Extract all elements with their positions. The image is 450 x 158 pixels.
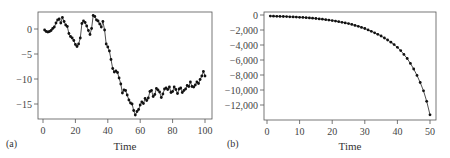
data-point	[119, 83, 122, 86]
data-point	[292, 16, 295, 19]
y-tick-label: −6,000	[230, 55, 258, 66]
chart-b-x-axis-title: Time	[339, 140, 362, 152]
data-point	[81, 22, 84, 25]
data-point	[318, 18, 321, 21]
data-point	[134, 114, 137, 117]
data-point	[132, 109, 135, 112]
data-point	[124, 89, 127, 92]
data-point	[184, 88, 187, 91]
data-point	[176, 92, 179, 95]
data-point	[105, 43, 108, 46]
data-point	[269, 15, 272, 18]
data-point	[275, 15, 278, 18]
data-point	[279, 15, 282, 18]
data-point	[199, 78, 202, 81]
data-point	[116, 71, 119, 74]
data-point	[150, 89, 153, 92]
data-point	[162, 93, 165, 96]
data-point	[173, 86, 176, 89]
data-point	[393, 43, 396, 46]
chart-a-x-axis-title: Time	[114, 140, 137, 152]
data-point	[202, 70, 205, 73]
y-tick-label: −2,000	[230, 25, 258, 36]
data-point	[354, 24, 357, 27]
data-point	[396, 46, 399, 49]
chart-b-series-line	[270, 16, 430, 115]
data-point	[403, 53, 406, 56]
data-point	[357, 25, 360, 28]
chart-a-plot-area	[38, 12, 212, 119]
chart-b-panel-label: (b)	[227, 138, 239, 150]
chart-a-series-line	[45, 16, 205, 116]
data-point	[71, 37, 74, 40]
data-point	[127, 99, 130, 102]
data-point	[102, 20, 105, 23]
y-tick-label: −10	[16, 74, 32, 85]
x-tick-label: 30	[360, 126, 370, 137]
data-point	[79, 37, 82, 40]
data-point	[179, 87, 182, 90]
data-point	[272, 15, 275, 18]
data-point	[77, 43, 80, 46]
x-tick-label: 60	[135, 125, 145, 136]
data-point	[409, 62, 412, 65]
data-point	[98, 23, 101, 26]
data-point	[282, 15, 285, 18]
data-point	[118, 77, 121, 80]
data-point	[93, 15, 96, 18]
x-tick-label: 0	[41, 125, 46, 136]
data-point	[197, 82, 200, 85]
data-point	[174, 88, 177, 91]
data-point	[321, 18, 324, 21]
data-point	[55, 22, 58, 25]
data-point	[347, 22, 350, 25]
data-point	[187, 85, 190, 88]
data-point	[85, 25, 88, 28]
y-tick-label: −10,000	[225, 85, 258, 96]
data-point	[108, 50, 111, 53]
data-point	[72, 39, 75, 42]
data-point	[68, 32, 71, 35]
data-point	[89, 33, 92, 36]
data-point	[66, 25, 69, 28]
x-tick-label: 20	[70, 125, 80, 136]
y-tick-label: −8,000	[230, 70, 258, 81]
data-point	[288, 15, 291, 18]
data-point	[139, 104, 142, 107]
x-tick-label: 10	[295, 126, 305, 137]
x-tick-label: 20	[327, 126, 337, 137]
data-point	[376, 33, 379, 36]
chart-b-x-axis: 01020304050	[265, 120, 436, 137]
data-point	[189, 81, 192, 84]
y-tick-label: −4,000	[230, 40, 258, 51]
data-point	[350, 23, 353, 26]
data-point	[334, 20, 337, 23]
data-point	[425, 100, 428, 103]
x-tick-label: 50	[425, 126, 435, 137]
x-tick-label: 100	[198, 125, 213, 136]
data-point	[302, 16, 305, 19]
data-point	[58, 18, 61, 21]
data-point	[360, 26, 363, 29]
data-point	[383, 37, 386, 40]
data-point	[147, 97, 150, 100]
data-point	[126, 94, 129, 97]
data-point	[324, 18, 327, 21]
y-tick-label: 0	[253, 10, 258, 21]
y-tick-label: 0	[27, 24, 32, 35]
data-point	[341, 21, 344, 24]
data-point	[61, 16, 64, 19]
y-tick-label: −15	[16, 99, 32, 110]
chart-a-panel-label: (a)	[6, 138, 17, 150]
data-point	[367, 29, 370, 32]
data-point	[298, 16, 301, 19]
data-point	[53, 26, 56, 29]
data-point	[103, 29, 106, 32]
data-point	[131, 103, 134, 106]
data-point	[171, 90, 174, 93]
chart-b-y-axis: 0−2,000−4,000−6,000−8,000−10,000−12,000	[225, 10, 264, 111]
data-point	[137, 108, 140, 111]
data-point	[422, 89, 425, 92]
data-point	[328, 19, 331, 22]
data-point	[145, 99, 148, 102]
